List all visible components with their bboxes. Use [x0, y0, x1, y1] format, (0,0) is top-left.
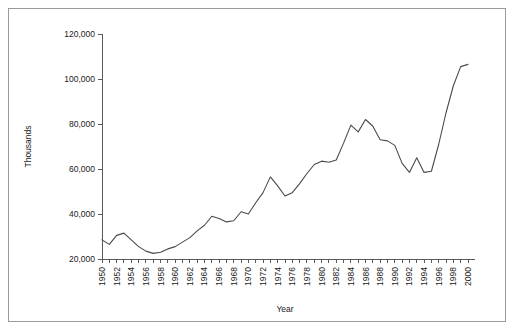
x-tick-label: 1998	[448, 267, 458, 286]
x-tick-label: 1990	[390, 267, 400, 286]
y-tick-label: 60,000	[69, 164, 95, 174]
y-axis-ticks	[98, 34, 102, 259]
x-tick-label: 1972	[258, 267, 268, 286]
x-tick-label: 1980	[317, 267, 327, 286]
x-tick-label: 1968	[229, 267, 239, 286]
x-tick-label: 1978	[302, 267, 312, 286]
x-tick-label: 1996	[434, 267, 444, 286]
x-tick-label: 1994	[419, 267, 429, 286]
x-tick-label: 1986	[361, 267, 371, 286]
y-tick-label: 40,000	[69, 209, 95, 219]
chart-figure: 20,00040,00060,00080,000100,000120,000 1…	[8, 8, 506, 322]
x-tick-label: 1976	[287, 267, 297, 286]
x-tick-label: 1954	[126, 267, 136, 286]
x-tick-label: 2000	[463, 267, 473, 286]
line-chart: 20,00040,00060,00080,000100,000120,000 1…	[9, 9, 507, 323]
x-tick-label: 1974	[273, 267, 283, 286]
x-tick-label: 1966	[214, 267, 224, 286]
x-tick-label: 1952	[112, 267, 122, 286]
x-axis-ticks	[102, 259, 468, 263]
y-axis-title: Thousands	[23, 125, 33, 167]
x-tick-label: 1950	[97, 267, 107, 286]
y-tick-label: 120,000	[64, 29, 95, 39]
x-tick-label: 1982	[331, 267, 341, 286]
x-tick-label: 1992	[404, 267, 414, 286]
x-tick-label: 1984	[346, 267, 356, 286]
x-tick-label: 1958	[156, 267, 166, 286]
x-tick-label: 1970	[243, 267, 253, 286]
y-tick-label: 80,000	[69, 119, 95, 129]
y-tick-label: 100,000	[64, 74, 95, 84]
chart-svg: 20,00040,00060,00080,000100,000120,000 1…	[9, 9, 507, 323]
x-tick-label: 1956	[141, 267, 151, 286]
x-axis-title: Year	[276, 304, 293, 314]
y-tick-label: 20,000	[69, 254, 95, 264]
x-tick-label: 1964	[199, 267, 209, 286]
x-tick-label: 1988	[375, 267, 385, 286]
x-tick-label: 1962	[185, 267, 195, 286]
x-axis-tick-labels: 1950195219541956195819601962196419661968…	[97, 267, 473, 286]
y-axis-tick-labels: 20,00040,00060,00080,000100,000120,000	[64, 29, 95, 264]
x-tick-label: 1960	[170, 267, 180, 286]
data-series-line	[102, 64, 468, 253]
